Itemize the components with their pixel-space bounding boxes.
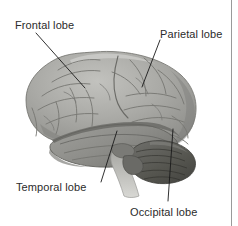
label-frontal-lobe: Frontal lobe (15, 19, 74, 31)
label-occipital-lobe: Occipital lobe (130, 206, 197, 218)
brain-lobes-figure: Frontal lobe Parietal lobe Temporal lobe… (0, 0, 238, 226)
label-parietal-lobe: Parietal lobe (160, 28, 222, 40)
label-temporal-lobe: Temporal lobe (16, 181, 86, 193)
figure-right-border (231, 0, 232, 226)
